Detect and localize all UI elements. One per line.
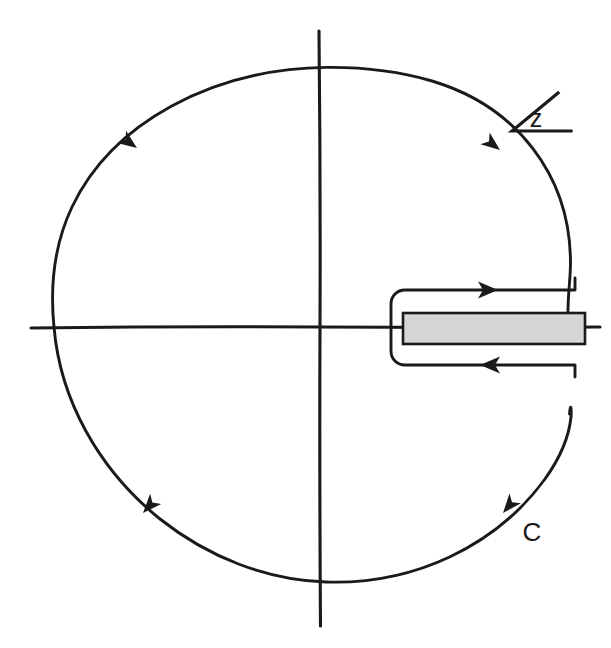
vertical-axis bbox=[319, 31, 321, 626]
diagram-canvas: z C bbox=[0, 0, 611, 648]
branch-cut-group bbox=[403, 313, 585, 344]
upper-right-arrow-icon bbox=[480, 132, 504, 156]
variable-label-z: z bbox=[530, 104, 543, 132]
lower-left-arrow-icon bbox=[137, 494, 161, 518]
contour-label-c: C bbox=[523, 517, 542, 547]
contour-diagram-figure: z C bbox=[0, 0, 611, 648]
branch-cut-band bbox=[403, 313, 585, 344]
lower-right-arrow-icon bbox=[497, 494, 521, 518]
angle-z-symbol-group: z bbox=[512, 93, 571, 132]
